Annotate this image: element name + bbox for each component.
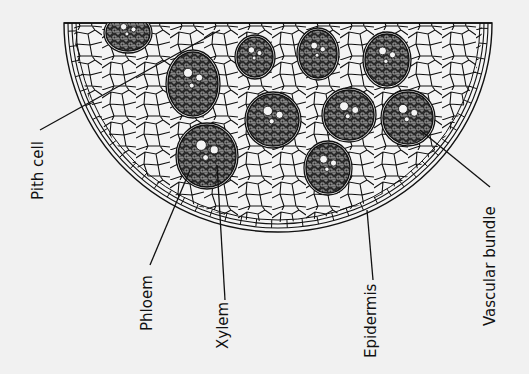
xylem-vessel — [189, 83, 194, 88]
epidermis-leader — [367, 210, 373, 280]
xylem-vessel — [120, 23, 126, 29]
label-pith-cell: Pith cell — [31, 141, 46, 200]
xylem-vessel — [315, 53, 319, 57]
vascular-bundle — [166, 50, 220, 118]
xylem-vessel — [276, 111, 283, 118]
label-epidermis: Epidermis — [364, 284, 379, 358]
xylem-vessel — [399, 104, 408, 113]
vascular-bundle — [363, 32, 411, 88]
xylem-vessel — [330, 160, 336, 166]
xylem-vessel — [257, 50, 262, 55]
vascular-bundle — [245, 92, 301, 148]
label-vascular-bundle: Vascular bundle — [483, 206, 498, 326]
xylem-vessel — [352, 107, 359, 114]
xylem-vessel — [320, 155, 328, 163]
xylem-vessel — [252, 56, 256, 60]
vascular-bundle — [235, 35, 275, 79]
xylem-vessel — [411, 109, 418, 116]
xylem-vessel — [184, 68, 193, 77]
xylem-vessel — [325, 167, 329, 171]
vascular-bundle — [176, 123, 238, 189]
diagram-canvas: Pith cell Phloem Xylem Epidermis Vascula… — [0, 0, 529, 374]
xylem-vessel — [196, 140, 206, 150]
xylem-vessel — [210, 146, 218, 154]
label-phloem: Phloem — [140, 275, 155, 331]
xylem-vessel — [269, 119, 274, 124]
xylem-vessel — [263, 106, 272, 115]
xylem-vessel — [404, 117, 409, 122]
vascular-bundle — [304, 141, 352, 195]
xylem-vessel — [131, 27, 136, 32]
xylem-vessel — [345, 114, 350, 119]
stem-cross-section-illustration — [0, 0, 529, 374]
xylem-vessel — [340, 102, 349, 111]
xylem-vessel — [389, 52, 395, 58]
vascular-bundle — [104, 13, 152, 53]
xylem-vessel — [248, 47, 254, 53]
xylem-vessel — [196, 74, 203, 81]
xylem-vessel — [125, 32, 129, 36]
xylem-vessel — [320, 47, 325, 52]
xylem-vessel — [203, 155, 209, 161]
label-xylem: Xylem — [216, 302, 231, 349]
vascular-bundle — [322, 88, 376, 142]
xylem-vessel — [311, 42, 318, 49]
vascular-bundle — [381, 90, 435, 146]
xylem-vessel — [384, 59, 388, 63]
vascular-bundle — [297, 28, 339, 80]
xylem-vessel — [379, 47, 387, 55]
